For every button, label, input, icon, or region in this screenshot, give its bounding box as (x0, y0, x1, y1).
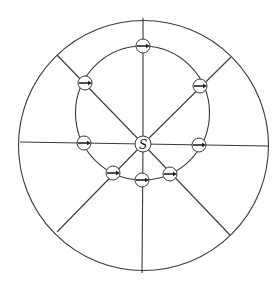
radial-line-down-right (143, 144, 230, 235)
marker-lower-left (106, 166, 120, 180)
radial-line-up-right (143, 57, 231, 144)
marker-bottom (135, 173, 149, 187)
marker-top (136, 39, 150, 53)
marker-upper-right (193, 79, 207, 93)
marker-right (192, 138, 206, 152)
marker-left (77, 136, 91, 150)
marker-upper-left (78, 76, 92, 90)
radial-line-down-left (57, 144, 143, 232)
source-node: S (135, 136, 151, 152)
radial-line-down (142, 144, 143, 273)
radial-line-up-left (57, 55, 143, 144)
source-label: S (139, 138, 147, 152)
orbit-markers (77, 39, 207, 187)
marker-lower-right (163, 167, 177, 181)
circular-field-diagram: S (0, 0, 278, 285)
